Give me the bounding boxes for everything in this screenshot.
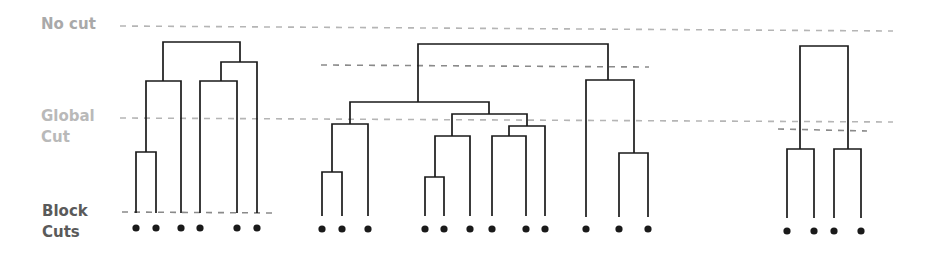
merge-link bbox=[787, 149, 814, 218]
leaf-node bbox=[196, 224, 203, 231]
merge-link bbox=[136, 152, 156, 213]
leaf-node bbox=[253, 224, 260, 231]
leaf-node bbox=[522, 225, 529, 232]
leaf-node bbox=[541, 225, 548, 232]
merge-link bbox=[509, 126, 545, 216]
merge-link bbox=[619, 153, 648, 217]
merge-link bbox=[834, 149, 861, 218]
merge-link bbox=[452, 114, 527, 136]
leaf-node bbox=[440, 225, 447, 232]
leaf-node bbox=[152, 224, 159, 231]
leaf-node bbox=[132, 224, 139, 231]
merge-link bbox=[800, 46, 848, 149]
dendrogram-diagram bbox=[0, 0, 931, 259]
leaf-node bbox=[615, 225, 622, 232]
no-cut-line bbox=[120, 26, 893, 31]
leaf-node bbox=[177, 224, 184, 231]
leaf-node bbox=[466, 225, 473, 232]
merge-link bbox=[418, 44, 608, 102]
leaf-node bbox=[364, 225, 371, 232]
merge-link bbox=[200, 81, 237, 213]
block-cut-dendrogram-3 bbox=[778, 129, 867, 131]
merge-link bbox=[322, 172, 342, 216]
merge-link bbox=[425, 177, 444, 216]
leaf-node bbox=[488, 225, 495, 232]
leaf-node bbox=[338, 225, 345, 232]
block-cut-dendrogram-2 bbox=[321, 65, 649, 67]
leaf-node bbox=[644, 225, 651, 232]
leaf-node bbox=[810, 227, 817, 234]
leaf-node bbox=[421, 225, 428, 232]
leaf-node bbox=[830, 227, 837, 234]
leaf-node bbox=[783, 227, 790, 234]
dendrograms bbox=[132, 42, 864, 235]
merge-link bbox=[146, 81, 181, 213]
global-cut-line bbox=[120, 118, 893, 122]
dendrogram-3 bbox=[783, 46, 864, 235]
dendrogram-2 bbox=[318, 44, 651, 233]
merge-link bbox=[492, 136, 526, 216]
dendrogram-1 bbox=[132, 42, 260, 232]
leaf-node bbox=[233, 224, 240, 231]
leaf-node bbox=[582, 225, 589, 232]
merge-link bbox=[332, 124, 368, 216]
leaf-node bbox=[857, 227, 864, 234]
block-cut-dendrogram-1 bbox=[122, 212, 276, 213]
merge-link bbox=[586, 80, 634, 217]
merge-link bbox=[350, 102, 489, 124]
cut-lines bbox=[120, 26, 893, 213]
leaf-node bbox=[318, 225, 325, 232]
merge-link bbox=[221, 62, 257, 213]
merge-link bbox=[435, 136, 470, 216]
